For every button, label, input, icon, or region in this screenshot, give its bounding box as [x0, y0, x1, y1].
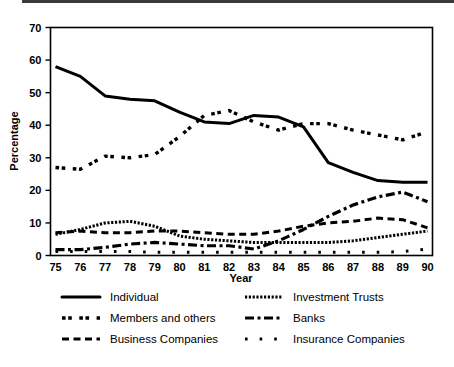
y-tick-label: 70 [29, 22, 41, 34]
x-axis-title: Year [229, 272, 253, 284]
series-line-investment-trusts [56, 221, 428, 242]
x-tick-label: 76 [74, 261, 86, 273]
series-line-banks [56, 192, 428, 250]
legend-label: Banks [293, 312, 325, 324]
x-tick-label: 77 [99, 261, 111, 273]
series-line-insurance-companies [56, 249, 428, 252]
x-tick-label: 87 [347, 261, 359, 273]
legend-label: Insurance Companies [293, 333, 405, 345]
y-tick-label: 0 [35, 250, 41, 262]
x-axis: 75767778798081828384858687888990 [49, 261, 433, 273]
chart-legend: IndividualInvestment TrustsMembers and o… [62, 291, 405, 345]
x-tick-label: 82 [223, 261, 235, 273]
legend-label: Members and others [110, 312, 216, 324]
x-tick-label: 80 [173, 261, 185, 273]
x-tick-label: 86 [322, 261, 334, 273]
y-tick-label: 10 [29, 217, 41, 229]
x-tick-label: 90 [421, 261, 433, 273]
y-tick-label: 20 [29, 184, 41, 196]
legend-label: Investment Trusts [293, 291, 384, 303]
x-tick-label: 88 [372, 261, 384, 273]
x-tick-label: 81 [198, 261, 210, 273]
y-tick-label: 60 [29, 54, 41, 66]
y-axis-title: Percentage [8, 111, 20, 170]
legend-label: Business Companies [110, 333, 218, 345]
y-tick-label: 50 [29, 87, 41, 99]
x-tick-label: 78 [124, 261, 136, 273]
series-line-individual [56, 67, 428, 183]
series-line-business-companies [56, 218, 428, 234]
y-tick-label: 30 [29, 152, 41, 164]
x-tick-label: 89 [397, 261, 409, 273]
y-tick-label: 40 [29, 119, 41, 131]
x-tick-label: 79 [149, 261, 161, 273]
line-chart: 010203040506070 757677787980818283848586… [0, 0, 454, 367]
x-tick-label: 84 [273, 261, 286, 273]
series-group [56, 67, 428, 253]
x-tick-label: 75 [49, 261, 61, 273]
x-tick-label: 83 [248, 261, 260, 273]
x-tick-label: 85 [297, 261, 309, 273]
y-axis: 010203040506070 [29, 22, 50, 262]
chart-page: 010203040506070 757677787980818283848586… [0, 0, 454, 367]
legend-label: Individual [110, 291, 159, 303]
